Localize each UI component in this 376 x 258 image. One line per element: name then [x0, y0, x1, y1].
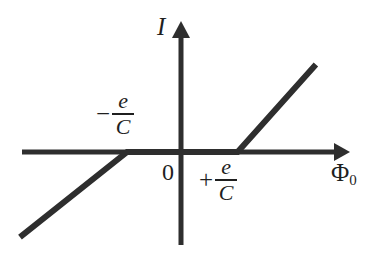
negative-threshold-label: − e C [96, 90, 134, 138]
x-axis-label: Φ0 [331, 160, 357, 188]
negative-threshold-sign: − [96, 101, 110, 128]
y-axis-arrow-icon [172, 21, 190, 38]
origin-label: 0 [162, 160, 174, 184]
positive-threshold-fraction: e C [215, 156, 237, 204]
x-axis-label-symbol: Φ [331, 159, 349, 186]
negative-threshold-numerator: e [115, 90, 131, 113]
iv-characteristic-figure: I Φ0 0 − e C + e C [0, 0, 376, 258]
positive-threshold-label: + e C [199, 156, 237, 204]
y-axis-label: I [157, 14, 165, 39]
x-axis-label-subscript: 0 [349, 172, 357, 188]
positive-threshold-denominator: C [216, 181, 237, 204]
positive-threshold-numerator: e [218, 156, 234, 179]
negative-threshold-fraction: e C [112, 90, 134, 138]
positive-threshold-sign: + [199, 167, 213, 194]
plot-canvas [0, 0, 376, 258]
negative-threshold-denominator: C [113, 115, 134, 138]
